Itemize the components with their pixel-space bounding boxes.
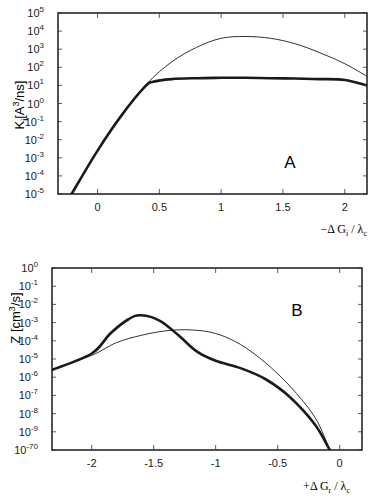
x-tick-label: 0.5 bbox=[152, 201, 167, 213]
x-tick-label: -0.5 bbox=[268, 457, 287, 469]
y-tick-label: 10-4 bbox=[25, 168, 45, 182]
y-tick-label: 10-9 bbox=[19, 424, 39, 438]
y-tick-label: 105 bbox=[27, 5, 44, 19]
plot-area bbox=[52, 315, 330, 450]
y-tick-label: 101 bbox=[27, 77, 44, 91]
y-tick-label: 103 bbox=[27, 41, 44, 55]
y-tick-label: 10-70 bbox=[14, 442, 38, 456]
y-tick-label: 10-5 bbox=[19, 351, 39, 365]
y-tick-label: 10-5 bbox=[25, 186, 45, 200]
plot-frame bbox=[52, 268, 362, 450]
x-tick-label: 1 bbox=[218, 201, 224, 213]
y-tick-label: 10-8 bbox=[19, 406, 39, 420]
x-axis-label-a: −Δ Gi / λc bbox=[321, 222, 368, 238]
y-tick-label: 100 bbox=[21, 260, 38, 274]
y-tick-label: 10-6 bbox=[19, 369, 39, 383]
y-tick-label: 102 bbox=[27, 59, 44, 73]
y-tick-label: 10-1 bbox=[19, 278, 39, 292]
y-tick-label: 10-7 bbox=[19, 387, 39, 401]
figure: 10510410310210110010-110-210-310-410-500… bbox=[0, 0, 375, 503]
panel-a: 10510410310210110010-110-210-310-410-500… bbox=[11, 5, 367, 238]
curve-thick bbox=[72, 78, 367, 194]
plot-area bbox=[72, 37, 367, 195]
x-tick-label: 0 bbox=[337, 457, 343, 469]
x-tick-label: -1.5 bbox=[144, 457, 163, 469]
panel-label-a: A bbox=[284, 153, 296, 172]
x-tick-label: 1.5 bbox=[275, 201, 290, 213]
y-tick-label: 100 bbox=[27, 96, 44, 110]
x-tick-label: 2 bbox=[342, 201, 348, 213]
plot-frame bbox=[58, 13, 367, 194]
x-tick-label: 0 bbox=[94, 201, 100, 213]
y-axis-label-b: Z [cm3/s] bbox=[7, 292, 23, 343]
curve-thick bbox=[52, 315, 330, 450]
x-tick-label: -1 bbox=[211, 457, 221, 469]
y-tick-label: 104 bbox=[27, 23, 44, 37]
panel-label-b: B bbox=[291, 301, 302, 320]
y-tick-label: 10-2 bbox=[25, 132, 45, 146]
y-tick-label: 10-3 bbox=[25, 150, 45, 164]
x-tick-label: -2 bbox=[87, 457, 97, 469]
x-axis-label-b: +Δ Gr / λc bbox=[303, 479, 350, 495]
curve-thin bbox=[72, 37, 367, 195]
panel-b: 10010-110-210-310-410-510-610-710-810-91… bbox=[7, 260, 362, 495]
